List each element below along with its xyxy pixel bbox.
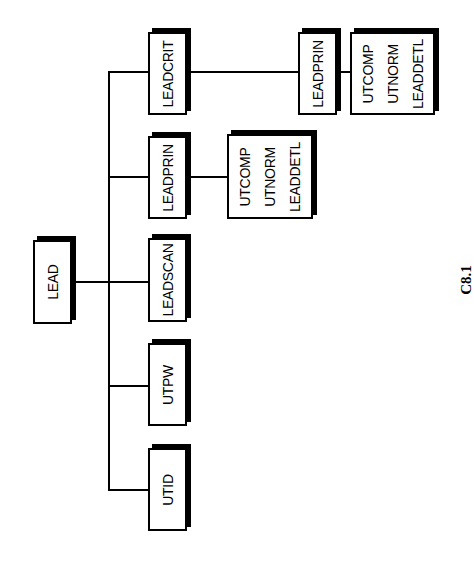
node-label: LEADCRIT: [161, 40, 175, 107]
node-label: UTID: [161, 474, 175, 505]
figure-label: C8.1: [458, 265, 473, 295]
leaf-item-utnorm: UTNORM: [258, 147, 283, 207]
trunk-line: [108, 71, 110, 491]
leaf-item-leaddetl: LEADDETL: [405, 39, 430, 109]
branch-leadcrit: [108, 71, 148, 73]
branch-leadprin: [108, 176, 148, 178]
connector-leadcrit-leadprin: [186, 71, 298, 73]
node-label: LEADSCAN: [161, 243, 175, 316]
connector-leadprin-leaf: [186, 176, 227, 178]
tree-diagram: LEAD LEADCRIT LEADPRIN LEADSCAN UTPW UTI…: [0, 0, 473, 564]
node-leadcrit-leadprin: LEADPRIN: [298, 32, 337, 115]
node-label: LEADPRIN: [161, 144, 175, 212]
node-utid: UTID: [148, 448, 187, 531]
node-label: UTPW: [161, 364, 175, 404]
branch-utpw: [108, 385, 148, 387]
leaf-items: UTCOMP UTNORM LEADDETL: [233, 142, 308, 212]
leaf-item-utcomp: UTCOMP: [355, 44, 380, 103]
branch-utid: [108, 489, 148, 491]
node-label: LEAD: [46, 264, 60, 299]
leaf-item-utcomp: UTCOMP: [233, 147, 258, 206]
node-leadprin-leaf-group: UTCOMP UTNORM LEADDETL: [227, 134, 313, 219]
leaf-item-utnorm: UTNORM: [380, 44, 405, 104]
node-leadscan: LEADSCAN: [148, 238, 187, 322]
node-leadprin: LEADPRIN: [148, 136, 187, 219]
node-leadcrit: LEADCRIT: [148, 32, 187, 115]
node-leadcrit-leaf-group: UTCOMP UTNORM LEADDETL: [350, 32, 435, 115]
node-label: LEADPRIN: [311, 40, 325, 108]
connector-leadprin-leaf-top: [336, 71, 350, 73]
leaf-item-leaddetl: LEADDETL: [283, 142, 308, 212]
node-utpw: UTPW: [148, 343, 187, 426]
node-lead: LEAD: [33, 240, 72, 324]
leaf-items: UTCOMP UTNORM LEADDETL: [355, 39, 430, 109]
